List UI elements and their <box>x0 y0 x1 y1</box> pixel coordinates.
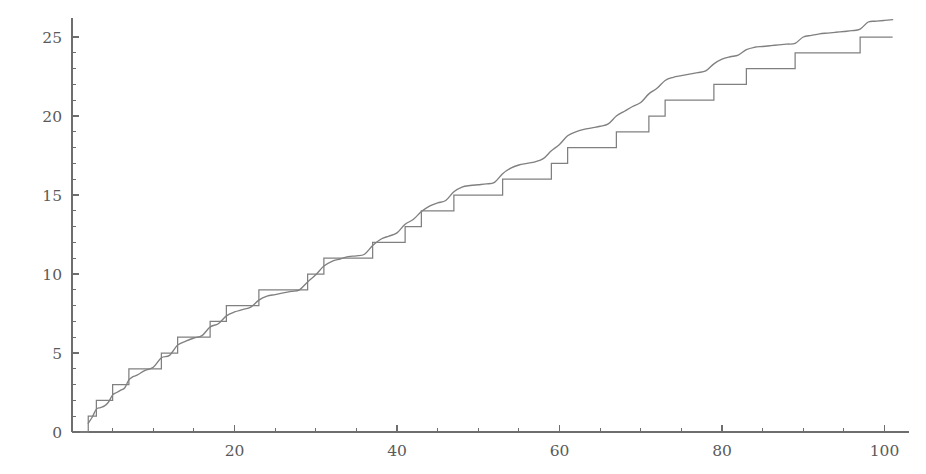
series-group <box>80 20 893 432</box>
smooth-approximation-series <box>88 20 892 424</box>
x-axis-ticks <box>113 425 885 432</box>
chart-container: 20406080100 0510152025 <box>0 0 926 474</box>
y-tick-label: 5 <box>52 345 62 363</box>
y-axis-ticks <box>72 37 79 432</box>
x-axis-tick-labels: 20406080100 <box>225 442 900 460</box>
axes-group <box>72 18 909 432</box>
y-tick-label: 10 <box>42 266 62 284</box>
prime-counting-chart: 20406080100 0510152025 <box>0 0 926 474</box>
x-tick-label: 100 <box>870 442 900 460</box>
y-tick-label: 0 <box>52 424 62 442</box>
x-tick-label: 20 <box>225 442 245 460</box>
prime-counting-step-series <box>80 37 893 432</box>
x-tick-label: 40 <box>387 442 407 460</box>
x-tick-label: 60 <box>550 442 570 460</box>
y-tick-label: 15 <box>42 187 62 205</box>
y-axis-tick-labels: 0510152025 <box>42 29 62 442</box>
y-tick-label: 20 <box>42 108 62 126</box>
x-tick-label: 80 <box>712 442 732 460</box>
y-tick-label: 25 <box>42 29 62 47</box>
